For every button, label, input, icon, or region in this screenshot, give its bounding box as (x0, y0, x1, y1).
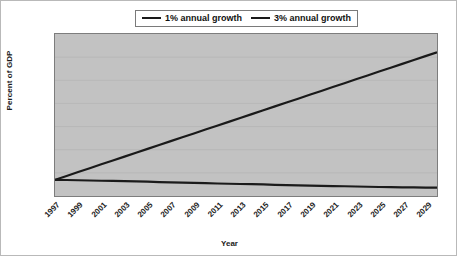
plot-svg (55, 34, 437, 196)
chart-container: 1% annual growth 3% annual growth Percen… (1, 1, 456, 255)
data-line-1pct (55, 180, 437, 188)
data-line-3pct (55, 52, 437, 180)
x-axis-title: Year (1, 239, 457, 248)
plot-area (54, 33, 438, 197)
